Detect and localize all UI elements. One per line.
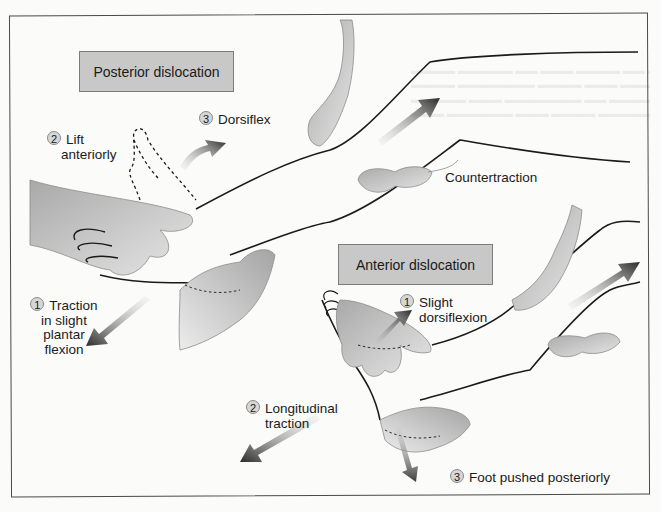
step-number-badge: 1 (400, 294, 414, 308)
arrow-dorsiflex (180, 140, 226, 170)
step-number-badge: 1 (30, 297, 44, 311)
countertraction-wrap (358, 160, 458, 192)
posterior-step-2-label: 2Lift anteriorly (47, 131, 117, 162)
posterior-step-3-label: 3Dorsiflex (199, 111, 271, 127)
step-number-badge: 3 (450, 469, 464, 483)
posterior-right-hand (179, 250, 275, 350)
posterior-step-1-label: 1Traction in slight plantar flexion (29, 297, 99, 357)
anterior-dislocation-title: Anterior dislocation (356, 257, 475, 273)
anterior-step-2-label: 2Longitudinal traction (246, 400, 338, 431)
anterior-dislocation-heading: Anterior dislocation (338, 244, 493, 285)
anterior-wrap (548, 333, 620, 357)
arrow-anterior-countertraction (568, 262, 640, 310)
step-number-badge: 2 (246, 400, 260, 414)
posterior-dislocation-title: Posterior dislocation (93, 64, 219, 80)
anterior-lower-hand (380, 407, 470, 452)
countertraction-hand-top (308, 20, 354, 146)
anterior-step-1-label: 1Slight dorsiflexion (400, 294, 487, 325)
step-number-badge: 2 (47, 131, 61, 145)
figure-canvas: ▬▬▬▬ ▬▬▬▬▬ ▬▬ ▬▬▬ ▬▬▬▬ ▬▬ ▬▬▬▬▬ ▬▬▬▬ ▬▬▬… (0, 0, 661, 512)
countertraction-label: Countertraction (445, 170, 537, 185)
step-number-badge: 3 (199, 111, 213, 125)
posterior-dislocation-heading: Posterior dislocation (79, 51, 234, 92)
posterior-left-hand (30, 180, 193, 275)
anterior-step-3-label: 3Foot pushed posteriorly (450, 469, 610, 485)
anterior-countertraction-hand (512, 205, 582, 310)
